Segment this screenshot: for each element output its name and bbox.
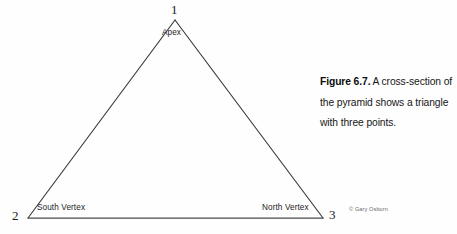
figure-page: 1 2 3 Apex South Vertex North Vertex Fig…	[0, 0, 457, 234]
vertex-label-south-vertex: South Vertex	[37, 204, 85, 212]
vertex-number-2: 2	[12, 209, 19, 222]
figure-caption: Figure 6.7. A cross-section of the pyram…	[320, 72, 457, 134]
copyright-credit: © Gary Osborn	[349, 206, 388, 212]
vertex-label-north-vertex: North Vertex	[262, 204, 309, 212]
vertex-label-apex: Apex	[162, 29, 181, 37]
vertex-number-3: 3	[329, 208, 336, 221]
vertex-number-1: 1	[171, 3, 178, 16]
triangle-edge-apex-south	[28, 20, 175, 218]
caption-figure-number: Figure 6.7.	[320, 76, 370, 87]
triangle-diagram: 1 2 3 Apex South Vertex North Vertex	[0, 0, 350, 234]
triangle-edge-apex-north	[175, 20, 323, 218]
